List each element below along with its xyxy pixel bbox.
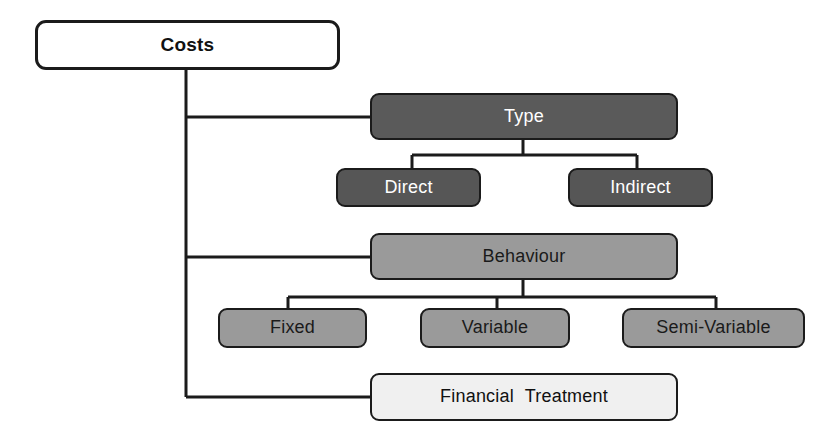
node-indirect[interactable]: Indirect xyxy=(568,168,713,207)
node-variable-label: Variable xyxy=(422,318,568,338)
node-type-label: Type xyxy=(372,107,676,127)
node-semi-variable[interactable]: Semi-Variable xyxy=(622,308,805,348)
node-direct-label: Direct xyxy=(338,178,479,198)
node-financial-treatment[interactable]: Financial Treatment xyxy=(370,373,678,421)
node-direct[interactable]: Direct xyxy=(336,168,481,207)
node-costs-label: Costs xyxy=(38,35,337,56)
node-fixed[interactable]: Fixed xyxy=(218,308,367,348)
node-semi-variable-label: Semi-Variable xyxy=(624,318,803,338)
node-indirect-label: Indirect xyxy=(570,178,711,198)
node-fixed-label: Fixed xyxy=(220,318,365,338)
costs-hierarchy-diagram: Costs Type Direct Indirect Behaviour Fix… xyxy=(0,0,837,445)
node-behaviour[interactable]: Behaviour xyxy=(370,233,678,280)
node-costs[interactable]: Costs xyxy=(35,20,340,70)
node-variable[interactable]: Variable xyxy=(420,308,570,348)
node-financial-treatment-label: Financial Treatment xyxy=(372,387,676,407)
node-type[interactable]: Type xyxy=(370,93,678,140)
node-behaviour-label: Behaviour xyxy=(372,247,676,267)
